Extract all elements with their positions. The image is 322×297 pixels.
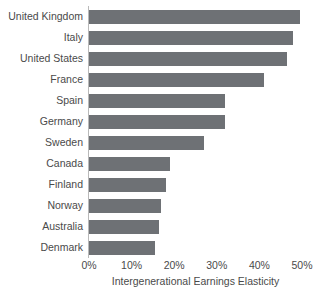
bar	[89, 94, 225, 108]
bar-row: Germany	[0, 111, 322, 132]
bar-row: Denmark	[0, 237, 322, 258]
x-axis-title: Intergenerational Earnings Elasticity	[89, 275, 302, 288]
x-axis-tick-labels: 0%10%20%30%40%50%	[0, 259, 322, 273]
category-label: United States	[0, 48, 83, 69]
bar-row: France	[0, 69, 322, 90]
category-label: Sweden	[0, 132, 83, 153]
bar	[89, 178, 166, 192]
category-label: Spain	[0, 90, 83, 111]
plot-area: United KingdomItalyUnited StatesFranceSp…	[0, 6, 322, 258]
x-tick-label: 50%	[282, 259, 322, 272]
bar	[89, 10, 300, 24]
category-label: France	[0, 69, 83, 90]
bar-chart: United KingdomItalyUnited StatesFranceSp…	[0, 0, 322, 297]
bar	[89, 73, 264, 87]
bar	[89, 136, 204, 150]
bar	[89, 241, 155, 255]
bar-row: Sweden	[0, 132, 322, 153]
bar	[89, 220, 159, 234]
x-tick-label: 30%	[197, 259, 237, 272]
x-tick-label: 0%	[69, 259, 109, 272]
bar	[89, 115, 225, 129]
category-label: Denmark	[0, 237, 83, 258]
bar-row: Australia	[0, 216, 322, 237]
category-label: Italy	[0, 27, 83, 48]
x-tick-label: 40%	[239, 259, 279, 272]
bar-row: Finland	[0, 174, 322, 195]
bar-row: Spain	[0, 90, 322, 111]
bar-row: Norway	[0, 195, 322, 216]
bar-row: United States	[0, 48, 322, 69]
bar	[89, 31, 293, 45]
bar-row: Italy	[0, 27, 322, 48]
x-tick-label: 20%	[154, 259, 194, 272]
x-tick-label: 10%	[112, 259, 152, 272]
category-label: Canada	[0, 153, 83, 174]
category-label: Germany	[0, 111, 83, 132]
bar-row: United Kingdom	[0, 6, 322, 27]
bar-row: Canada	[0, 153, 322, 174]
category-label: Australia	[0, 216, 83, 237]
bar	[89, 199, 161, 213]
bar	[89, 157, 170, 171]
category-label: Finland	[0, 174, 83, 195]
category-label: Norway	[0, 195, 83, 216]
category-label: United Kingdom	[0, 6, 83, 27]
bar	[89, 52, 287, 66]
